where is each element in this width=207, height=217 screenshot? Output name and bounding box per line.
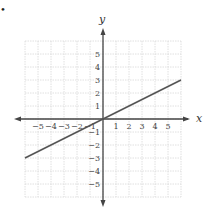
svg-text:−2: −2 — [88, 141, 100, 150]
svg-text:−3: −3 — [88, 154, 100, 163]
svg-text:−4: −4 — [45, 122, 57, 131]
svg-text:−5: −5 — [88, 180, 100, 189]
y-axis-down-arrow-icon — [101, 200, 106, 207]
svg-text:−5: −5 — [32, 122, 44, 131]
svg-text:−3: −3 — [58, 122, 70, 131]
svg-text:−1: −1 — [88, 128, 100, 137]
svg-text:4: 4 — [152, 122, 157, 131]
svg-text:3: 3 — [95, 76, 100, 85]
svg-text:5: 5 — [165, 122, 170, 131]
bullet-marker: • — [0, 4, 6, 15]
x-axis-left-arrow-icon — [14, 117, 21, 122]
y-axis-up-arrow-icon — [101, 28, 106, 35]
svg-text:3: 3 — [139, 122, 144, 131]
coordinate-plane: • x y −5−4−3−2−11234554321−1−2−3−4−5 — [0, 0, 207, 217]
svg-text:1: 1 — [95, 102, 100, 111]
svg-text:5: 5 — [95, 50, 100, 59]
svg-text:2: 2 — [95, 89, 100, 98]
svg-text:1: 1 — [113, 122, 118, 131]
y-axis-label: y — [98, 13, 106, 26]
svg-text:2: 2 — [126, 122, 131, 131]
svg-text:−4: −4 — [88, 167, 100, 176]
svg-text:4: 4 — [95, 63, 100, 72]
x-axis-label: x — [196, 112, 203, 125]
x-axis-right-arrow-icon — [183, 117, 190, 122]
